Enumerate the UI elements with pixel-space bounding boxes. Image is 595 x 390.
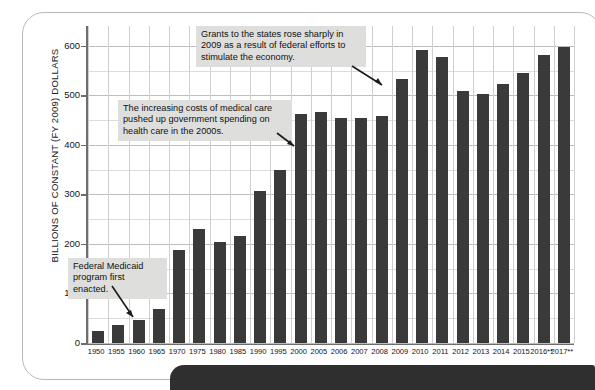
bar-1995 [274, 170, 286, 343]
bar-1970 [173, 250, 185, 343]
y-tick-mark-400 [81, 145, 86, 147]
bar-2000 [295, 114, 307, 343]
y-tick-label-0: 0 [36, 337, 80, 348]
bar-1980 [214, 242, 226, 343]
y-tick-mark-200 [81, 244, 86, 246]
bar-2008 [376, 116, 388, 343]
x-axis-labels: 1950195519601965197019751980198519901995… [86, 347, 574, 363]
bar-2006 [335, 118, 347, 343]
bar-1990 [254, 191, 266, 343]
y-tick-mark-600 [81, 46, 86, 48]
annotation-federal-medicaid: Federal Medicaid program first enacted. [68, 258, 167, 299]
bar-1960 [133, 320, 145, 343]
annotation-grants-to-states: Grants to the states rose sharply in 200… [196, 26, 366, 67]
bar-2009 [396, 79, 408, 343]
bar-2005 [315, 112, 327, 343]
gridline-x-24 [574, 26, 575, 343]
bar-2012 [457, 91, 469, 343]
chart-page: BILLIONS OF CONSTANT (FY 2009) DOLLARS 0… [0, 0, 595, 390]
y-tick-label-400: 400 [36, 139, 80, 150]
bar-1950 [92, 331, 104, 343]
gridline-y-0 [88, 343, 574, 344]
bar-1955 [112, 325, 124, 343]
bar-2017 [558, 47, 570, 343]
bar-1965 [153, 309, 165, 343]
bar-2016 [538, 55, 550, 343]
y-tick-label-600: 600 [36, 40, 80, 51]
bar-2011 [436, 57, 448, 343]
bar-2013 [477, 94, 489, 343]
bar-2010 [416, 50, 428, 343]
bar-2014 [497, 84, 509, 343]
y-tick-mark-300 [81, 194, 86, 196]
bar-2007 [355, 118, 367, 343]
page-footer-band [170, 365, 595, 390]
y-tick-label-500: 500 [36, 89, 80, 100]
bar-chart: BILLIONS OF CONSTANT (FY 2009) DOLLARS 0… [0, 0, 595, 368]
y-tick-label-300: 300 [36, 188, 80, 199]
y-tick-mark-0 [81, 343, 86, 345]
x-tick-label-2017: 2017** [546, 347, 578, 356]
y-tick-mark-500 [81, 95, 86, 97]
bar-1975 [193, 229, 205, 343]
bar-2015 [517, 73, 529, 343]
y-tick-label-200: 200 [36, 238, 80, 249]
annotation-medical-costs: The increasing costs of medical care pus… [118, 100, 292, 141]
bar-1985 [234, 236, 246, 343]
